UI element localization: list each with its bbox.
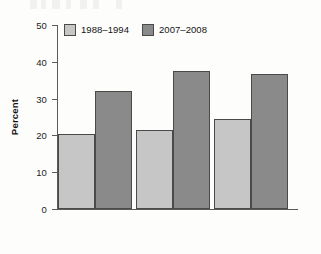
y-axis-tick-mark <box>52 209 57 210</box>
bar-1-series-2 <box>95 91 132 209</box>
y-axis-tick-label: 0 <box>42 204 47 215</box>
bar-1-series-1 <box>58 134 95 209</box>
y-axis-tick-mark <box>52 172 57 173</box>
y-axis-tick-label: 40 <box>36 56 47 67</box>
bar-chart: Percent 50403020100 1988–19942007–2008 <box>0 0 321 254</box>
y-axis-tick-mark <box>52 25 57 26</box>
legend-swatch-icon <box>142 24 154 36</box>
legend-swatch-icon <box>64 24 76 36</box>
legend-item-2: 2007–2008 <box>142 24 207 36</box>
y-axis-tick-label: 10 <box>36 167 47 178</box>
legend-label: 1988–1994 <box>81 24 129 35</box>
y-axis-title: Percent <box>9 99 20 135</box>
x-axis-line <box>57 209 298 210</box>
bar-3-series-2 <box>251 74 288 209</box>
y-axis-tick-mark <box>52 62 57 63</box>
scan-artifact <box>30 0 150 9</box>
y-axis-tick-mark <box>52 135 57 136</box>
bar-3-series-1 <box>214 119 251 209</box>
y-axis-tick-label: 20 <box>36 130 47 141</box>
y-axis-tick-label: 50 <box>36 20 47 31</box>
bar-2-series-1 <box>136 130 173 209</box>
bar-2-series-2 <box>173 71 210 209</box>
y-axis-tick-mark <box>52 99 57 100</box>
plot-area <box>58 25 292 209</box>
chart-legend: 1988–19942007–2008 <box>64 22 207 37</box>
legend-label: 2007–2008 <box>159 24 207 35</box>
legend-item-1: 1988–1994 <box>64 24 129 36</box>
y-axis-tick-label: 30 <box>36 93 47 104</box>
